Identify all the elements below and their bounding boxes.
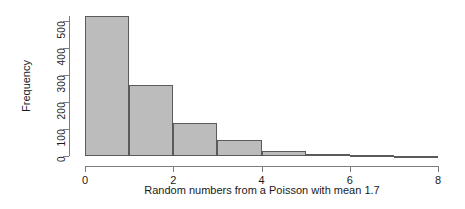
y-axis-tick-label: 100 xyxy=(56,129,67,147)
histogram-bar xyxy=(306,154,350,156)
x-axis-tick-label: 8 xyxy=(435,174,441,186)
histogram-bars xyxy=(0,0,465,209)
y-axis-title: Frequency xyxy=(20,60,32,112)
y-axis-tick-label: 400 xyxy=(56,48,67,66)
x-axis-tick xyxy=(85,166,86,172)
y-axis-tick-label: 500 xyxy=(56,21,67,39)
histogram-bar xyxy=(129,85,173,156)
y-axis-tick-label: 200 xyxy=(56,102,67,120)
x-axis-tick xyxy=(262,166,263,172)
histogram-plot: 0100200300400500 02468 Frequency Random … xyxy=(0,0,465,209)
x-axis-tick xyxy=(438,166,439,172)
y-axis-tick-label: 0 xyxy=(56,156,67,162)
x-axis-tick xyxy=(350,166,351,172)
histogram-bar xyxy=(262,151,306,156)
x-axis-tick xyxy=(173,166,174,172)
x-axis-title: Random numbers from a Poisson with mean … xyxy=(144,184,379,196)
x-axis-tick-label: 0 xyxy=(82,174,88,186)
histogram-bar xyxy=(217,140,261,156)
y-axis-tick-label: 300 xyxy=(56,75,67,93)
histogram-bar xyxy=(85,16,129,156)
histogram-bar xyxy=(350,155,394,157)
histogram-bar xyxy=(173,123,217,156)
histogram-bar xyxy=(394,156,438,158)
